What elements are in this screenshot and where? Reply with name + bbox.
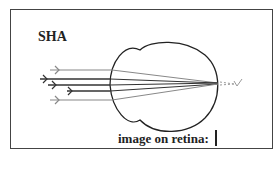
retina-image-mark [215, 130, 217, 146]
eye-diagram [0, 0, 280, 178]
diagram-canvas: SHA [0, 0, 280, 178]
focus-mark-icon [234, 79, 242, 86]
dashed-extension [220, 82, 234, 84]
refracted-rays [110, 70, 218, 100]
refracted-ray-5 [112, 84, 218, 100]
incoming-rays [40, 70, 112, 100]
image-caption: image on retina: [118, 131, 209, 147]
virtual-focus [220, 79, 242, 86]
